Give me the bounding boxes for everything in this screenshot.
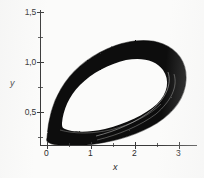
y-tick-label-1-0: 1,0 [14,57,36,67]
y-tick-label-1-5: 1,5 [14,7,36,17]
trajectory-band [47,41,186,146]
phase-plane-chart: 1,5 1,0 0,5 0 1 2 3 y x [0,0,204,178]
x-axis-title: x [113,162,118,172]
y-tick-label-0-5: 0,5 [14,107,36,117]
y-axis-title: y [10,78,15,88]
plot-canvas [0,0,204,178]
x-tick-label-3: 3 [176,148,181,158]
x-tick-label-2: 2 [132,148,137,158]
x-tick-label-0: 0 [44,148,49,158]
x-tick-label-1: 1 [88,148,93,158]
